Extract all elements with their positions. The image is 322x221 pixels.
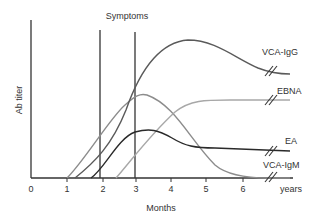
series-label-ea: EA [285, 136, 297, 146]
tick-label-3: 3 [133, 184, 138, 194]
symptoms-annotation: Symptoms [106, 11, 149, 21]
tick-label-0: 0 [28, 184, 33, 194]
series-label-ebna: EBNA [277, 86, 302, 96]
series-label-vca-igg: VCA-IgG [262, 47, 298, 57]
tick-label-4: 4 [168, 184, 173, 194]
series-vca-igg [75, 40, 290, 178]
y-axis-label: Ab titer [14, 86, 24, 115]
series-label-vca-igm: VCA-IgM [263, 160, 300, 170]
x-tick-labels: 0 1 2 3 4 5 6 [28, 184, 245, 194]
ebv-antibody-chart: 0 1 2 3 4 5 6 years Months Ab titer Symp… [0, 0, 322, 221]
tick-label-2: 2 [100, 184, 105, 194]
tick-label-5: 5 [203, 184, 208, 194]
series-ea [91, 130, 290, 178]
tick-label-1: 1 [64, 184, 69, 194]
x-end-label: years [280, 184, 303, 194]
x-axis-label: Months [146, 203, 176, 213]
tick-label-6: 6 [240, 184, 245, 194]
